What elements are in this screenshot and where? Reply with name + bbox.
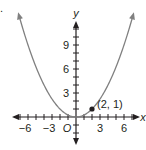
y-tick-labels: 369 <box>63 39 69 99</box>
x-tick-label: 3 <box>97 122 103 134</box>
y-axis-up-arrow-icon <box>73 21 79 28</box>
curve-right-arrow-icon <box>129 12 135 20</box>
x-axis-right-arrow-icon <box>133 114 140 120</box>
curve-left-arrow-icon <box>17 12 23 20</box>
point-label: (2, 1) <box>97 98 123 110</box>
origin-label: O <box>63 122 72 134</box>
x-tick-label: −6 <box>19 122 32 134</box>
y-tick-label: 6 <box>63 63 69 75</box>
y-tick-label: 3 <box>63 87 69 99</box>
x-tick-label: 6 <box>121 122 127 134</box>
x-tick-labels: −6−336 <box>19 122 127 134</box>
parabola-graph: . x y O −6−336 369 (2, 1) <box>0 0 146 150</box>
problem-marker: . <box>0 2 3 14</box>
x-axis-label: x <box>139 111 146 123</box>
point-2-1 <box>89 106 94 111</box>
y-tick-label: 9 <box>63 39 69 51</box>
y-axis-label: y <box>72 7 80 19</box>
x-tick-label: −3 <box>43 122 56 134</box>
x-axis-left-arrow-icon <box>12 114 19 120</box>
y-axis-down-arrow-icon <box>73 138 79 145</box>
